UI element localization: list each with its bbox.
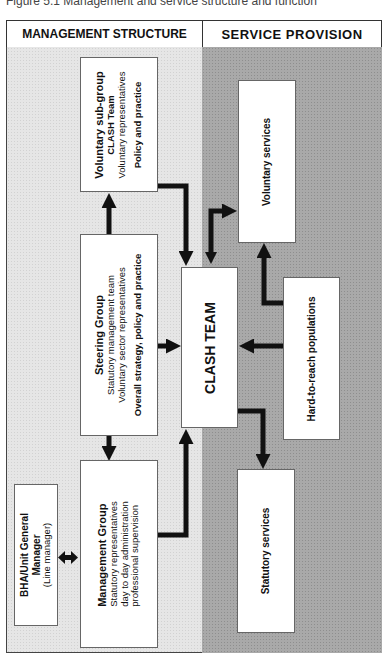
steering-group-line1: Statutory management team	[106, 254, 117, 416]
steering-group-title: Steering Group	[93, 254, 106, 416]
voluntary-subgroup-box: Voluntary sub-group CLASH Team Voluntary…	[80, 57, 158, 192]
arrow-hardtoreach-to-voluntary	[264, 252, 283, 303]
hard-to-reach-box: Hard-to-reach populations	[283, 277, 340, 440]
hard-to-reach-label: Hard-to-reach populations	[306, 296, 318, 421]
arrow-bha-management-bidirectional	[58, 551, 78, 564]
management-group-box: Management Group Statutory representativ…	[80, 460, 158, 648]
management-group-line3: professional supervision	[131, 501, 142, 607]
line-manager-box: BHA/Unit General Manager (Line manager)	[14, 484, 58, 626]
management-group-title: Management Group	[96, 501, 109, 607]
steering-group-line3: Overall strategy, policy and practice	[134, 254, 145, 416]
arrow-clash-to-voluntary	[211, 211, 228, 257]
arrow-subgroup-to-clash	[154, 186, 186, 257]
steering-group-box: Steering Group Statutory management team…	[80, 234, 158, 436]
voluntary-subgroup-line1: CLASH Team	[106, 71, 117, 178]
clash-team-label: CLASH TEAM	[201, 302, 217, 394]
voluntary-subgroup-title: Voluntary sub-group	[93, 71, 106, 178]
arrow-voluntary-to-clash	[205, 252, 217, 264]
voluntary-services-box: Voluntary services	[238, 80, 296, 243]
line-manager-title1: BHA/Unit General	[19, 513, 31, 597]
voluntary-subgroup-line3: Policy and practice	[134, 71, 145, 178]
clash-team-box: CLASH TEAM	[181, 267, 238, 428]
voluntary-subgroup-line2: Voluntary representatives	[117, 71, 128, 178]
voluntary-services-label: Voluntary services	[261, 117, 273, 205]
line-manager-subtitle: (Line manager)	[42, 513, 53, 597]
statutory-services-label: Statutory services	[260, 508, 272, 595]
statutory-services-box: Statutory services	[237, 469, 295, 633]
steering-group-line2: Voluntary sector representatives	[117, 254, 128, 416]
management-group-line1: Statutory representatives	[109, 501, 120, 607]
